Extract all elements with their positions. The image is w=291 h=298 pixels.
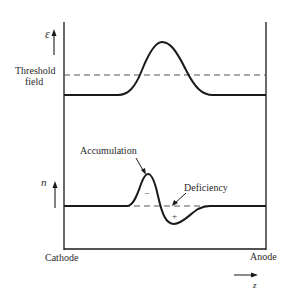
threshold-label-line1: Threshold [15,65,56,76]
cathode-label: Cathode [45,252,79,263]
field-axis-symbol: ε [45,27,50,41]
density-axis-arrowhead-icon [53,181,58,188]
threshold-label-line2: field [25,76,43,87]
accumulation-label: Accumulation [80,145,137,156]
z-axis-symbol: z [252,280,257,290]
field-axis-arrowhead-icon [52,29,57,36]
density-axis-symbol: n [41,176,47,188]
deficiency-pointer-line [175,193,186,203]
carrier-density-curve [64,174,266,224]
z-direction-arrowhead-icon [251,273,258,278]
positive-charge-sign: + [172,211,177,221]
negative-charge-sign: − [144,188,149,198]
diagram-canvas: ε Threshold field n Accumulation Deficie… [0,0,291,298]
deficiency-label: Deficiency [184,182,228,193]
anode-label: Anode [250,251,277,262]
electric-field-curve [64,42,266,95]
